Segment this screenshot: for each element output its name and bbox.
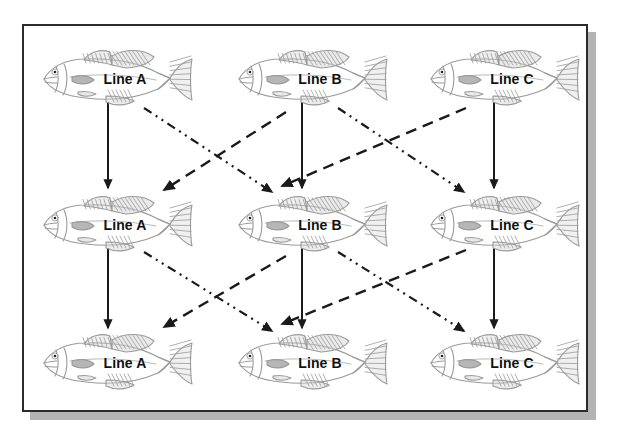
- fish-node-r1c3: Line C: [421, 46, 581, 112]
- fish-node-r2c3: Line C: [421, 192, 581, 258]
- edge-dash-dot-dot-arrow-r1c2-to-r2c3: [338, 108, 464, 192]
- diagram-canvas: Line A: [0, 0, 623, 443]
- fish-node-r2c1: Line A: [34, 192, 194, 258]
- fish-node-r2c2: Line B: [229, 192, 389, 258]
- edge-dashed-arrow-r2c3-to-r3c2: [282, 250, 466, 324]
- fish-node-r1c1: Line A: [34, 46, 194, 112]
- edge-dashed-arrow-r2c2-to-r3c1: [164, 256, 286, 327]
- edge-dashed-arrow-r1c2-to-r2c1: [164, 112, 286, 190]
- fish-node-r3c1: Line A: [34, 330, 194, 396]
- edge-dash-dot-dot-arrow-r2c2-to-r3c3: [338, 252, 464, 331]
- edge-dash-dot-dot-arrow-r1c1-to-r2c2: [144, 108, 272, 192]
- edge-dash-dot-dot-arrow-r2c1-to-r3c2: [144, 252, 272, 331]
- fish-node-r1c2: Line B: [229, 46, 389, 112]
- fish-node-r3c3: Line C: [421, 330, 581, 396]
- fish-node-r3c2: Line B: [229, 330, 389, 396]
